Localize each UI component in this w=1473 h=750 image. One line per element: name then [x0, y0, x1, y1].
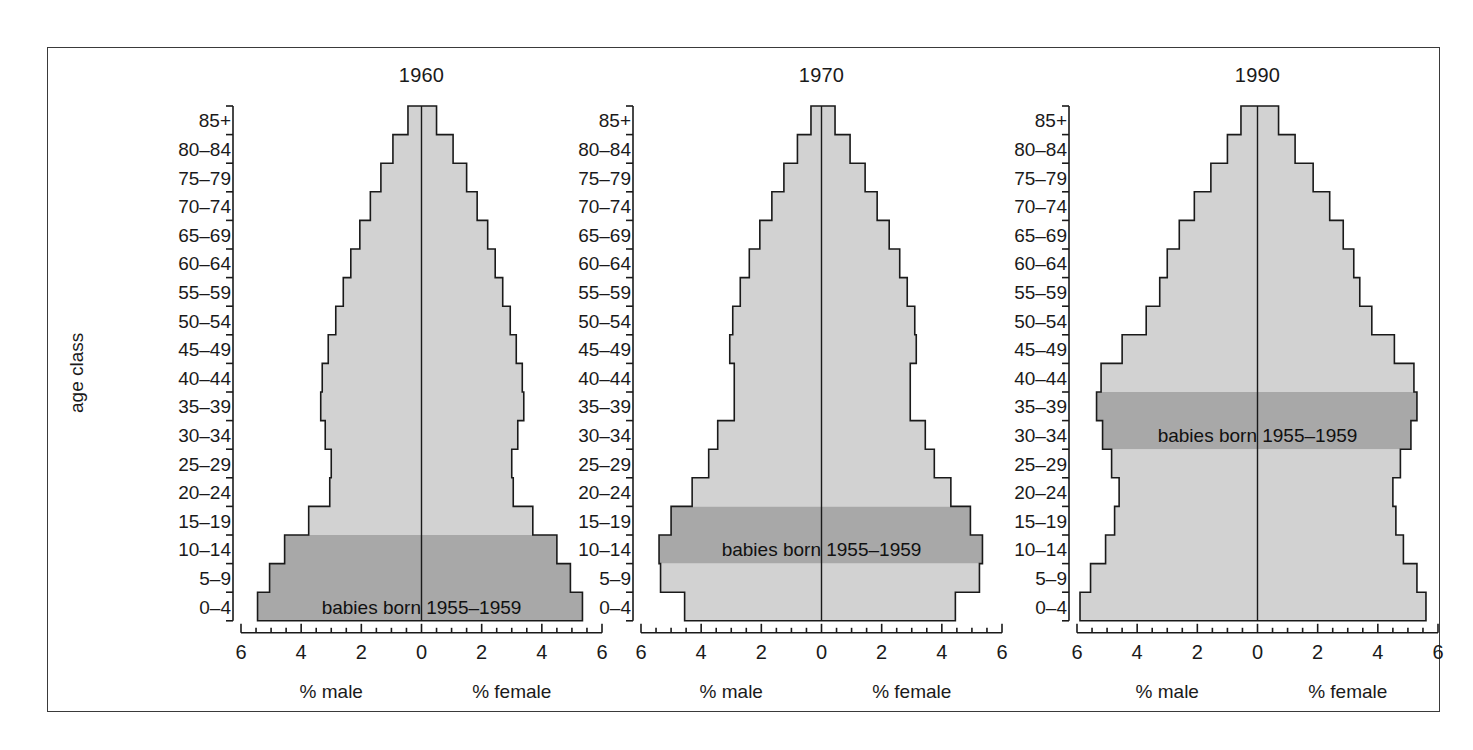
y-axis-tick-label: 70–74: [578, 197, 631, 216]
pyramid-panel-1960: 19600–45–910–1415–1920–2425–2930–3435–39…: [121, 48, 521, 711]
y-axis-tick-label: 75–79: [578, 169, 631, 188]
figure-frame: 19600–45–910–1415–1920–2425–2930–3435–39…: [47, 47, 1440, 712]
y-axis-tick-label: 0–4: [1035, 598, 1067, 617]
y-axis-tick-label: 30–34: [178, 426, 231, 445]
pyramid-plot: [641, 48, 1042, 661]
x-axis-tick-label: 6: [1057, 641, 1097, 664]
y-axis-tick-label: 85+: [1035, 111, 1067, 130]
x-axis-tick-label: 4: [1117, 641, 1157, 664]
y-axis-caption: age class: [66, 333, 88, 413]
x-axis-tick-label: 2: [1177, 641, 1217, 664]
x-axis-tick-label: 6: [1418, 641, 1458, 664]
male-axis-caption: % male: [681, 681, 781, 703]
x-axis-tick-label: 4: [281, 641, 321, 664]
y-axis-tick-label: 60–64: [1014, 254, 1067, 273]
y-axis-tick-label: 85+: [199, 111, 231, 130]
y-axis-tick-label: 50–54: [178, 312, 231, 331]
y-axis-tick-label: 50–54: [1014, 312, 1067, 331]
x-axis-tick-label: 2: [341, 641, 381, 664]
y-axis-tick-label: 45–49: [578, 340, 631, 359]
y-axis-tick-label: 5–9: [199, 569, 231, 588]
x-axis-tick-label: 0: [402, 641, 442, 664]
male-axis-caption: % male: [1117, 681, 1217, 703]
y-axis-tick-label: 40–44: [578, 369, 631, 388]
y-axis-tick-label: 65–69: [178, 226, 231, 245]
y-axis-tick-label: 40–44: [1014, 369, 1067, 388]
y-axis-tick-label: 80–84: [578, 140, 631, 159]
y-axis-tick-label: 30–34: [1014, 426, 1067, 445]
y-axis-tick-label: 30–34: [578, 426, 631, 445]
male-axis-caption: % male: [281, 681, 381, 703]
y-axis-tick-label: 35–39: [178, 397, 231, 416]
y-axis-tick-label: 10–14: [1014, 540, 1067, 559]
x-axis-tick-label: 6: [621, 641, 661, 664]
y-axis-tick-label: 5–9: [599, 569, 631, 588]
y-axis-tick-label: 25–29: [1014, 455, 1067, 474]
y-axis-tick-label: 20–24: [578, 483, 631, 502]
female-axis-caption: % female: [1293, 681, 1403, 703]
y-axis-tick-label: 55–59: [178, 283, 231, 302]
pyramid-body: [309, 106, 533, 535]
female-axis-caption: % female: [857, 681, 967, 703]
y-axis-tick-label: 0–4: [599, 598, 631, 617]
y-axis-tick-label: 20–24: [1014, 483, 1067, 502]
y-axis-tick-label: 55–59: [1014, 283, 1067, 302]
y-axis-tick-label: 25–29: [178, 455, 231, 474]
y-axis-tick-label: 65–69: [578, 226, 631, 245]
y-axis-tick-label: 60–64: [578, 254, 631, 273]
x-axis-tick-label: 4: [681, 641, 721, 664]
pyramid-plot: [1077, 48, 1473, 661]
pyramid-panel-1970: 19700–45–910–1415–1920–2425–2930–3435–39…: [521, 48, 961, 711]
y-axis-tick-label: 45–49: [1014, 340, 1067, 359]
y-axis-tick-label: 65–69: [1014, 226, 1067, 245]
x-axis-tick-label: 0: [1238, 641, 1278, 664]
x-axis-tick-label: 2: [862, 641, 902, 664]
x-axis-tick-label: 4: [1358, 641, 1398, 664]
y-axis-tick-label: 35–39: [1014, 397, 1067, 416]
y-axis-tick-label: 85+: [599, 111, 631, 130]
x-axis-tick-label: 2: [462, 641, 502, 664]
highlighted-cohort-band: [659, 506, 982, 563]
pyramid-body: [661, 564, 980, 621]
y-axis-tick-label: 50–54: [578, 312, 631, 331]
y-axis-tick-label: 80–84: [178, 140, 231, 159]
y-axis-tick-label: 40–44: [178, 369, 231, 388]
x-axis-tick-label: 4: [922, 641, 962, 664]
x-axis-tick-label: 0: [802, 641, 842, 664]
y-axis-tick-label: 70–74: [178, 197, 231, 216]
x-axis-tick-label: 2: [1298, 641, 1338, 664]
pyramid-panel-1990: 19900–45–910–1415–1920–2425–2930–3435–39…: [1011, 48, 1441, 711]
y-axis-tick-label: 75–79: [1014, 169, 1067, 188]
y-axis-tick-label: 0–4: [199, 598, 231, 617]
highlighted-cohort-band: [1097, 392, 1417, 449]
y-axis-tick-label: 70–74: [1014, 197, 1067, 216]
y-axis-tick-label: 5–9: [1035, 569, 1067, 588]
y-axis-tick-label: 25–29: [578, 455, 631, 474]
y-axis-tick-label: 10–14: [578, 540, 631, 559]
y-axis-tick-label: 15–19: [1014, 512, 1067, 531]
y-axis-tick-label: 15–19: [578, 512, 631, 531]
x-axis-tick-label: 6: [221, 641, 261, 664]
y-axis-tick-label: 35–39: [578, 397, 631, 416]
y-axis-tick-label: 60–64: [178, 254, 231, 273]
y-axis-tick-label: 80–84: [1014, 140, 1067, 159]
y-axis-tick-label: 10–14: [178, 540, 231, 559]
x-axis-tick-label: 2: [741, 641, 781, 664]
y-axis-tick-label: 45–49: [178, 340, 231, 359]
y-axis-tick-label: 15–19: [178, 512, 231, 531]
y-axis-tick-label: 20–24: [178, 483, 231, 502]
pyramid-body: [1080, 449, 1426, 621]
y-axis-tick-label: 55–59: [578, 283, 631, 302]
y-axis-tick-label: 75–79: [178, 169, 231, 188]
